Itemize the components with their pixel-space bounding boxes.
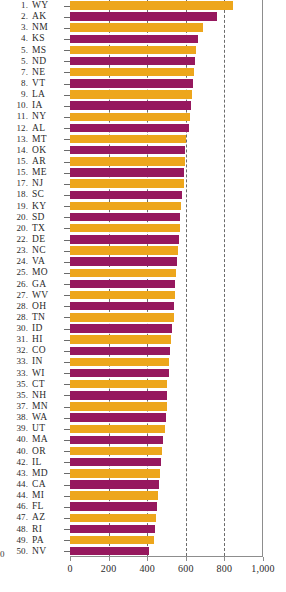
- bar: [70, 458, 161, 466]
- table-row: 33.WI: [0, 368, 286, 379]
- bar: [70, 191, 182, 199]
- table-row: 44.CA: [0, 479, 286, 490]
- bar: [70, 179, 184, 187]
- x-tick-mark-2: [147, 557, 148, 561]
- table-row: 4.KS: [0, 33, 286, 44]
- row-state-label: TN: [32, 312, 62, 323]
- bar: [70, 291, 175, 299]
- bar: [70, 547, 149, 555]
- row-rank-label: 46.: [0, 501, 28, 512]
- row-state-label: WA: [32, 412, 62, 423]
- bar: [70, 90, 192, 98]
- bar: [70, 23, 203, 31]
- row-rank-label: 17.: [0, 178, 28, 189]
- table-row: 40.OR: [0, 446, 286, 457]
- row-state-label: VT: [32, 78, 62, 89]
- row-rank-label: 20.: [0, 212, 28, 223]
- bar: [70, 402, 167, 410]
- table-row: 1.WY: [0, 0, 286, 11]
- row-state-label: WY: [32, 0, 62, 11]
- row-rank-label: 1.: [0, 0, 28, 11]
- row-rank-label: 27.: [0, 290, 28, 301]
- table-row: 5.MS: [0, 45, 286, 56]
- row-state-label: FL: [32, 501, 62, 512]
- bar: [70, 514, 156, 522]
- row-rank-label: 38.: [0, 412, 28, 423]
- row-rank-label: 10.: [0, 100, 28, 111]
- row-rank-label: 9.: [0, 89, 28, 100]
- row-rank-label: 18.: [0, 189, 28, 200]
- table-row: 2.AK: [0, 11, 286, 22]
- row-state-label: MA: [32, 434, 62, 445]
- bar: [70, 46, 196, 54]
- bar: [70, 324, 172, 332]
- table-row: 38.WA: [0, 412, 286, 423]
- bar: [70, 79, 193, 87]
- bar: [70, 235, 179, 243]
- bar: [70, 369, 169, 377]
- table-row: 17.NJ: [0, 178, 286, 189]
- row-state-label: GA: [32, 279, 62, 290]
- bar: [70, 246, 178, 254]
- row-state-label: SD: [32, 212, 62, 223]
- row-state-label: KS: [32, 33, 62, 44]
- row-rank-label: 22.: [0, 234, 28, 245]
- row-rank-label: 11.: [0, 111, 28, 122]
- table-row: 23.NC: [0, 245, 286, 256]
- bar: [70, 447, 162, 455]
- table-row: 10.IA: [0, 100, 286, 111]
- row-state-label: OK: [32, 145, 62, 156]
- bar: [70, 347, 170, 355]
- row-rank-label: 28.: [0, 312, 28, 323]
- bar: [70, 425, 165, 433]
- table-row: 24.VA: [0, 256, 286, 267]
- table-row: 30.ID: [0, 323, 286, 334]
- table-row: 22.DE: [0, 234, 286, 245]
- row-state-label: WI: [32, 368, 62, 379]
- row-state-label: OH: [32, 301, 62, 312]
- row-rank-label: 5.: [0, 56, 28, 67]
- bar: [70, 269, 176, 277]
- row-rank-label: 43.: [0, 468, 28, 479]
- row-rank-label: 39.: [0, 423, 28, 434]
- x-tick-mark-0: [70, 557, 71, 561]
- table-row: 43.MD: [0, 468, 286, 479]
- row-rank-label: 4.: [0, 33, 28, 44]
- bar: [70, 413, 166, 421]
- table-row: 13.MT: [0, 134, 286, 145]
- row-state-label: NV: [32, 546, 62, 557]
- bar-rows: 1.WY2.AK3.NM4.KS5.MS5.ND7.NE8.VT9.LA10.I…: [0, 0, 286, 557]
- row-rank-label: 14.: [0, 145, 28, 156]
- horizontal-bar-chart: 1.WY2.AK3.NM4.KS5.MS5.ND7.NE8.VT9.LA10.I…: [0, 0, 286, 592]
- row-state-label: SC: [32, 189, 62, 200]
- row-rank-label: 5.: [0, 45, 28, 56]
- row-state-label: IA: [32, 100, 62, 111]
- bar: [70, 113, 190, 121]
- row-state-label: LA: [32, 89, 62, 100]
- row-state-label: IL: [32, 457, 62, 468]
- row-rank-label: 2.: [0, 11, 28, 22]
- row-rank-label: 25.: [0, 267, 28, 278]
- table-row: 39.UT: [0, 423, 286, 434]
- table-row: 31.HI: [0, 334, 286, 345]
- bar: [70, 168, 184, 176]
- bar: [70, 480, 159, 488]
- row-state-label: ND: [32, 56, 62, 67]
- row-rank-label: 40.: [0, 446, 28, 457]
- row-rank-label: 7.: [0, 67, 28, 78]
- row-state-label: NE: [32, 67, 62, 78]
- bar: [70, 469, 160, 477]
- table-row: 5.ND: [0, 56, 286, 67]
- row-state-label: CA: [32, 479, 62, 490]
- bar: [70, 224, 180, 232]
- table-row: 8.VT: [0, 78, 286, 89]
- row-state-label: CO: [32, 345, 62, 356]
- x-tick-mark-4: [224, 557, 225, 561]
- table-row: 28.TN: [0, 312, 286, 323]
- table-row: 35.CT: [0, 379, 286, 390]
- table-row: 14.OK: [0, 145, 286, 156]
- x-tick-label: 1,000: [238, 563, 286, 575]
- bar: [70, 213, 180, 221]
- table-row: 35.NH: [0, 390, 286, 401]
- row-state-label: NH: [32, 390, 62, 401]
